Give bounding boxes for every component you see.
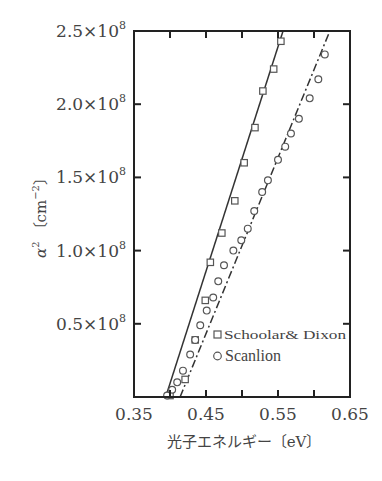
marker-circle: [187, 351, 194, 358]
plot-frame: [134, 31, 350, 397]
marker-circle: [288, 130, 295, 137]
marker-circle: [275, 156, 282, 163]
y-tick-label: 1.0×108: [56, 239, 126, 261]
fit-lines: [166, 31, 330, 397]
axis-ticks: [134, 31, 350, 397]
marker-square: [278, 38, 284, 44]
marker-circle: [265, 177, 272, 184]
marker-circle: [251, 208, 258, 215]
legend-label-schoolar-dixon: Schoolar& Dixon: [224, 327, 347, 342]
x-tick-label: 0.65: [331, 404, 369, 424]
marker-circle: [315, 76, 322, 83]
marker-square: [202, 297, 208, 303]
x-tick-labels: 0.350.450.550.65: [115, 404, 369, 424]
x-tick-label: 0.35: [115, 404, 153, 424]
x-tick-label: 0.55: [259, 404, 297, 424]
x-axis-title: 光子エネルギー〔eV〕: [167, 433, 322, 451]
y-tick-label: 0.5×108: [56, 312, 126, 334]
fit-line-solid: [166, 31, 283, 397]
legend-square-icon: [214, 331, 221, 338]
marker-circle: [221, 262, 228, 269]
y-tick-labels: 0.5×1081.0×1081.5×1082.0×1082.5×108: [56, 19, 126, 334]
marker-circle: [197, 322, 204, 329]
legend-circle-icon: [214, 352, 222, 360]
marker-square: [260, 88, 266, 94]
marker-circle: [215, 278, 222, 285]
marker-circle: [306, 95, 313, 102]
marker-circle: [259, 189, 266, 196]
y-axis-symbol: α: [32, 248, 50, 258]
marker-square: [232, 198, 238, 204]
marker-circle: [203, 307, 210, 314]
marker-square: [219, 230, 225, 236]
marker-square: [270, 66, 276, 72]
marker-circle: [180, 367, 187, 374]
marker-circle: [238, 237, 245, 244]
y-axis-title: α2〔cm−2〕: [30, 170, 50, 258]
legend: Schoolar& Dixon Scanlion: [214, 327, 347, 364]
y-tick-label: 2.0×108: [56, 92, 126, 114]
marker-circle: [210, 294, 217, 301]
y-tick-label: 1.5×108: [56, 165, 126, 187]
legend-label-scanlion: Scanlion: [225, 347, 281, 364]
y-tick-label: 2.5×108: [56, 19, 126, 41]
marker-circle: [282, 143, 289, 150]
marker-square: [182, 376, 188, 382]
marker-circle: [192, 337, 199, 344]
marker-square: [241, 160, 247, 166]
svg-text:α2〔cm−2〕: α2〔cm−2〕: [30, 170, 50, 258]
marker-circle: [295, 115, 302, 122]
chart-canvas: 0.5×1081.0×1081.5×1082.0×1082.5×108 0.35…: [0, 0, 382, 481]
marker-circle: [244, 225, 251, 232]
marker-square: [252, 124, 258, 130]
data-markers: [164, 38, 328, 399]
x-tick-label: 0.45: [187, 404, 225, 424]
marker-circle: [230, 247, 237, 254]
marker-circle: [174, 379, 181, 386]
marker-circle: [321, 51, 328, 58]
marker-square: [207, 259, 213, 265]
